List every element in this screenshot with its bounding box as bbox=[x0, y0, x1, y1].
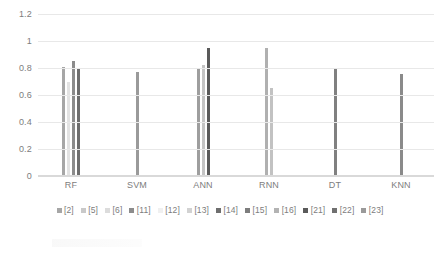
legend-label: [21] bbox=[311, 205, 326, 215]
legend-swatch-icon bbox=[187, 208, 192, 213]
y-axis-tick-label: 1 bbox=[27, 36, 32, 46]
x-axis-label: SVM bbox=[104, 180, 170, 196]
legend-swatch-icon bbox=[57, 208, 62, 213]
plot-area: 00.20.40.60.811.2 bbox=[0, 0, 440, 190]
legend-label: [6] bbox=[113, 205, 123, 215]
y-axis-tick-label: 0 bbox=[27, 171, 32, 181]
x-axis-label: KNN bbox=[368, 180, 434, 196]
legend-swatch-icon bbox=[81, 208, 86, 213]
legend-label: [5] bbox=[88, 205, 98, 215]
y-axis-tick-label: 0.6 bbox=[19, 90, 32, 100]
legend-item[interactable]: [13] bbox=[187, 205, 209, 215]
legend-label: [12] bbox=[165, 205, 180, 215]
legend-label: [14] bbox=[223, 205, 238, 215]
y-axis-tick-label: 0.2 bbox=[19, 144, 32, 154]
bar[interactable] bbox=[72, 61, 75, 176]
legend-label: [11] bbox=[137, 205, 151, 215]
plot-canvas: 00.20.40.60.811.2 bbox=[38, 14, 434, 176]
bar[interactable] bbox=[136, 72, 139, 176]
legend-item[interactable]: [21] bbox=[303, 205, 325, 215]
legend-label: [15] bbox=[253, 205, 268, 215]
legend-item[interactable]: [23] bbox=[361, 205, 383, 215]
legend-item[interactable]: [15] bbox=[245, 205, 267, 215]
gridline bbox=[38, 14, 434, 15]
legend-label: [23] bbox=[369, 205, 384, 215]
legend-label: [2] bbox=[64, 205, 74, 215]
bar-chart: 00.20.40.60.811.2 RFSVMANNRNNDTKNN [2][5… bbox=[0, 0, 440, 254]
x-axis-label: RNN bbox=[236, 180, 302, 196]
y-axis-tick-label: 0.8 bbox=[19, 63, 32, 73]
x-axis-label: DT bbox=[302, 180, 368, 196]
bar[interactable] bbox=[202, 65, 205, 176]
caption-strip bbox=[52, 239, 142, 247]
bar[interactable] bbox=[207, 48, 210, 176]
legend-item[interactable]: [5] bbox=[81, 205, 98, 215]
bar[interactable] bbox=[270, 88, 273, 176]
x-axis-label: RF bbox=[38, 180, 104, 196]
legend-swatch-icon bbox=[216, 208, 221, 213]
legend-swatch-icon bbox=[274, 208, 279, 213]
legend-item[interactable]: [11] bbox=[129, 205, 150, 215]
legend-item[interactable]: [14] bbox=[216, 205, 238, 215]
legend-swatch-icon bbox=[332, 208, 337, 213]
bar[interactable] bbox=[265, 48, 268, 176]
legend-swatch-icon bbox=[158, 208, 163, 213]
y-axis-tick-label: 0.4 bbox=[19, 117, 32, 127]
gridline bbox=[38, 176, 434, 177]
gridline bbox=[38, 149, 434, 150]
y-axis-tick-label: 1.2 bbox=[19, 9, 32, 19]
legend-label: [22] bbox=[340, 205, 355, 215]
gridline bbox=[38, 68, 434, 69]
legend-swatch-icon bbox=[245, 208, 250, 213]
legend-item[interactable]: [12] bbox=[158, 205, 180, 215]
gridline bbox=[38, 122, 434, 123]
legend-swatch-icon bbox=[303, 208, 308, 213]
legend-item[interactable]: [22] bbox=[332, 205, 354, 215]
bar[interactable] bbox=[400, 74, 403, 176]
gridline bbox=[38, 95, 434, 96]
legend-item[interactable]: [16] bbox=[274, 205, 296, 215]
chart-legend: [2][5][6][11][12][13][14][15][16][21][22… bbox=[0, 205, 440, 215]
legend-swatch-icon bbox=[361, 208, 366, 213]
x-axis-labels: RFSVMANNRNNDTKNN bbox=[38, 180, 434, 196]
legend-item[interactable]: [6] bbox=[105, 205, 122, 215]
legend-swatch-icon bbox=[129, 208, 134, 213]
x-axis-label: ANN bbox=[170, 180, 236, 196]
legend-label: [13] bbox=[194, 205, 209, 215]
gridline bbox=[38, 41, 434, 42]
legend-item[interactable]: [2] bbox=[57, 205, 74, 215]
legend-label: [16] bbox=[282, 205, 297, 215]
legend-swatch-icon bbox=[105, 208, 110, 213]
